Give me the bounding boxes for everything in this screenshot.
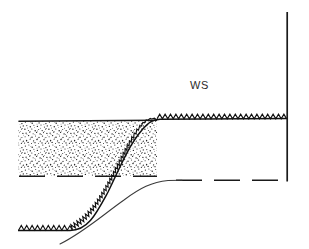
figure-canvas: WS (0, 0, 309, 249)
secondary-profile-curve (60, 180, 182, 244)
ws-label: WS (190, 79, 209, 91)
schematic-drawing (0, 0, 309, 249)
sediment-stipple-region (18, 121, 157, 176)
sediment-top-edge-line (19, 120, 158, 121)
lower-bed-sawtooth-hatch (19, 225, 73, 230)
